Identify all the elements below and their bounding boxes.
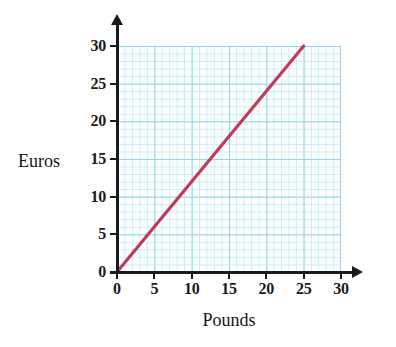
- x-tick-label: 30: [321, 280, 361, 298]
- y-tick-mark: [110, 83, 118, 85]
- y-tick-label: 30: [72, 37, 106, 55]
- conversion-graph: 0 5 10 15 20 25 30 0 5 10 15 20 25 30 Po…: [0, 0, 396, 347]
- x-tick-label: 10: [172, 280, 212, 298]
- y-tick-mark: [110, 271, 118, 273]
- y-tick-mark: [110, 233, 118, 235]
- x-tick-label: 25: [284, 280, 324, 298]
- y-axis-line: [116, 24, 119, 273]
- y-tick-label: 10: [72, 188, 106, 206]
- x-axis-title: Pounds: [117, 310, 341, 331]
- x-tick-label: 5: [134, 280, 174, 298]
- y-tick-mark: [110, 158, 118, 160]
- conversion-line: [117, 46, 304, 272]
- x-tick-mark: [265, 271, 267, 279]
- y-tick-label: 0: [72, 263, 106, 281]
- x-tick-mark: [153, 271, 155, 279]
- x-tick-mark: [191, 271, 193, 279]
- y-axis-title: Euros: [18, 151, 90, 172]
- x-tick-label: 20: [246, 280, 286, 298]
- x-tick-label: 15: [209, 280, 249, 298]
- y-tick-mark: [110, 45, 118, 47]
- y-tick-label: 25: [72, 75, 106, 93]
- y-tick-label: 5: [72, 225, 106, 243]
- y-tick-mark: [110, 196, 118, 198]
- x-tick-mark: [228, 271, 230, 279]
- x-axis-arrow-icon: [352, 266, 363, 278]
- y-tick-mark: [110, 120, 118, 122]
- x-tick-label: 0: [97, 280, 137, 298]
- x-axis-line: [110, 271, 353, 274]
- y-axis-arrow-icon: [111, 14, 123, 25]
- x-tick-mark: [303, 271, 305, 279]
- y-tick-label: 20: [72, 112, 106, 130]
- x-tick-mark: [340, 271, 342, 279]
- data-line-layer: [117, 46, 341, 272]
